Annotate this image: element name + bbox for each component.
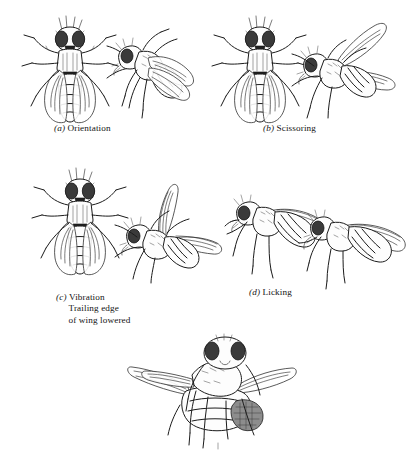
caption-b-name: Scissoring [277,123,316,133]
caption-c-line2: Trailing edge [56,303,131,314]
panel-e-copulation [120,335,305,452]
caption-d-name: Licking [263,287,292,297]
fly-scissoring-male-b [288,20,410,124]
caption-panel-c: (c) Vibration Trailing edge of wing lowe… [56,292,131,326]
panel-c-vibration: (c) Vibration Trailing edge of wing lowe… [0,155,225,330]
caption-c-name: Vibration [69,292,105,302]
caption-panel-b: (b) Scissoring [263,123,316,134]
caption-a-label: (a) [54,123,65,133]
caption-d-label: (d) [249,287,260,297]
fly-pair-copulation [130,335,300,450]
figure-plate: (a) Orientation [0,0,415,452]
caption-a-name: Orientation [68,123,111,133]
panel-a-orientation: (a) Orientation [0,0,210,140]
caption-b-label: (b) [263,123,274,133]
caption-panel-a: (a) Orientation [54,123,111,134]
fly-lateral-male-d [293,207,411,295]
fly-vibration-male-c [113,183,225,285]
caption-c-line3: of wing lowered [56,315,131,326]
caption-panel-d: (d) Licking [249,287,292,298]
fly-oblique-male-a [103,24,203,120]
caption-c-label: (c) [56,292,67,302]
panel-b-scissoring: (b) Scissoring [200,0,415,140]
panel-d-licking: (d) Licking [215,185,415,305]
